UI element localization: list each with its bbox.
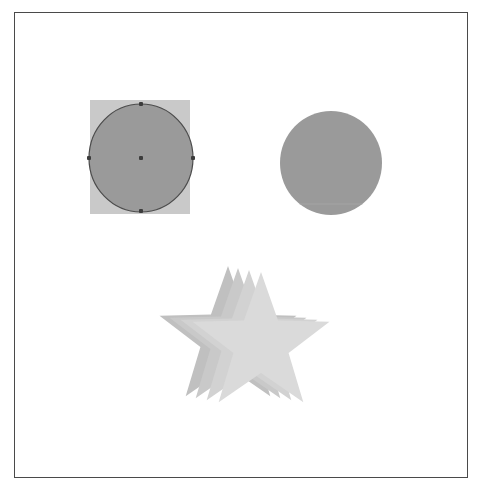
handle-center[interactable] — [139, 156, 143, 160]
drawing-area[interactable] — [0, 0, 483, 494]
handle-left[interactable] — [87, 156, 91, 160]
plain-circle[interactable] — [280, 111, 382, 215]
handle-bottom[interactable] — [139, 209, 143, 213]
handle-right[interactable] — [191, 156, 195, 160]
canvas-frame — [0, 0, 483, 494]
shapes-layer — [0, 0, 483, 494]
handle-top[interactable] — [139, 102, 143, 106]
